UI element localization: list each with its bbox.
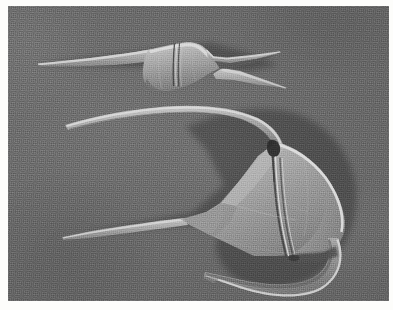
micrograph-plate: [8, 6, 389, 301]
micrograph-page: [0, 0, 393, 310]
specimen-layer: [8, 6, 389, 301]
lower-hook-attachment-pit: [289, 255, 300, 261]
upper-cell: [37, 42, 288, 95]
